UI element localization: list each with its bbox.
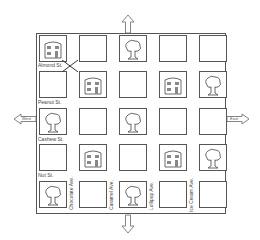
map-block (199, 71, 227, 98)
west-label: West (22, 116, 31, 121)
house-icon (82, 147, 104, 169)
house-icon (42, 38, 64, 60)
house-icon (162, 147, 184, 169)
street-label-peanut: Peanut St. (38, 99, 61, 105)
map-block (159, 144, 187, 171)
map-block (159, 181, 187, 208)
map-block (119, 144, 147, 171)
street-label-almond: Almond St. (38, 62, 62, 68)
map-block (199, 181, 227, 208)
tree-icon (122, 184, 144, 206)
map-block (159, 108, 187, 135)
map-block (39, 35, 67, 62)
map-block (159, 35, 187, 62)
map-block (79, 108, 107, 135)
map-block (199, 108, 227, 135)
map-block (39, 108, 67, 135)
tree-icon (42, 111, 64, 133)
street-label-cashew: Cashew St. (38, 136, 64, 142)
south-arrow-icon (121, 214, 135, 234)
map-block (119, 108, 147, 135)
east-label: East (230, 116, 238, 121)
map-block (199, 144, 227, 171)
map-block (79, 71, 107, 98)
avenue-label-lollipop: Lollipop Ave. (148, 182, 154, 210)
map-block (79, 181, 107, 208)
tree-icon (202, 74, 224, 96)
map-block (119, 35, 147, 62)
map-block (79, 35, 107, 62)
map-block (199, 35, 227, 62)
street-label-nut: Nut St. (38, 172, 53, 178)
north-arrow-icon (121, 14, 135, 34)
map-block (119, 71, 147, 98)
tree-icon (122, 38, 144, 60)
map-block (39, 181, 67, 208)
house-icon (82, 74, 104, 96)
map-block (79, 144, 107, 171)
tree-icon (42, 184, 64, 206)
map-block (119, 181, 147, 208)
tree-icon (122, 111, 144, 133)
house-icon (162, 74, 184, 96)
map-block (159, 71, 187, 98)
avenue-label-caramel: Caramel Ave. (108, 180, 114, 210)
map-block (39, 71, 67, 98)
tree-icon (202, 147, 224, 169)
avenue-label-icecream: Ice Cream Ave. (188, 178, 194, 212)
map-block (39, 144, 67, 171)
street-cross-mark (60, 60, 80, 72)
avenue-label-chocolate: Chocolate Ave. (68, 176, 74, 210)
